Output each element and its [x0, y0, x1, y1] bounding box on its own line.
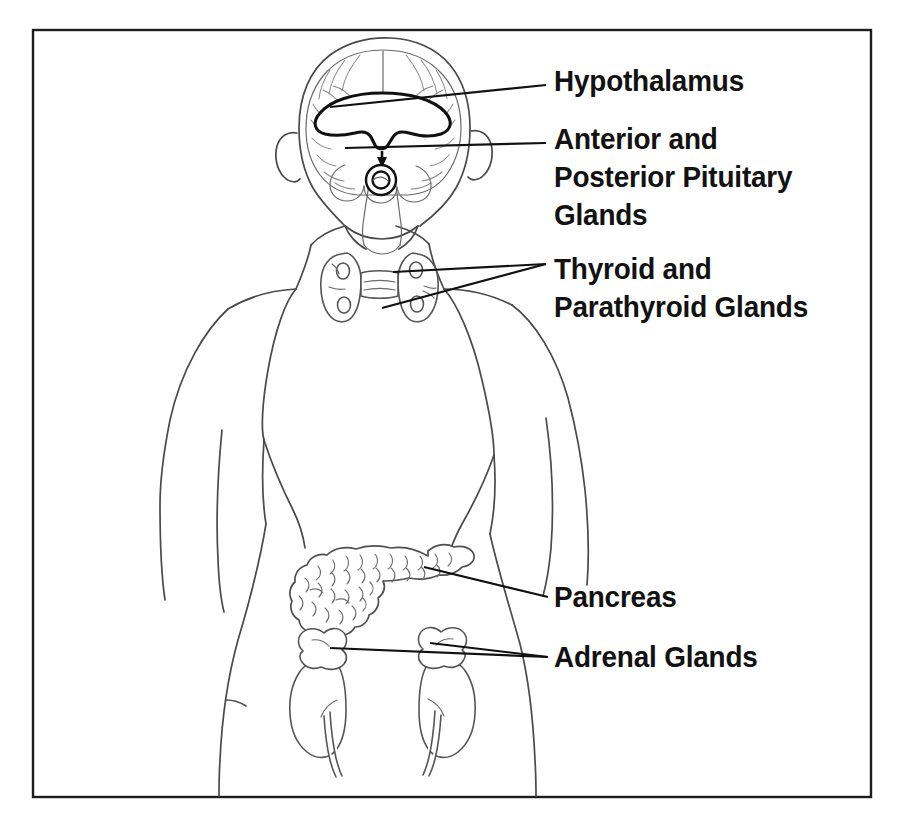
hypothalamus	[315, 93, 450, 168]
thyroid-gland	[321, 253, 438, 322]
pancreas	[290, 545, 474, 638]
right-adrenal-gland	[419, 628, 467, 669]
label-adrenal-glands: Adrenal Glands	[554, 638, 758, 676]
label-thyroid: Thyroid and Parathyroid Glands	[554, 250, 808, 326]
brain	[306, 50, 461, 254]
endocrine-diagram: Hypothalamus Anterior and Posterior Pitu…	[0, 0, 898, 815]
label-hypothalamus: Hypothalamus	[554, 62, 744, 100]
right-kidney	[419, 658, 475, 776]
leader-line-pancreas	[424, 567, 548, 597]
label-pituitary: Anterior and Posterior Pituitary Glands	[554, 120, 792, 234]
label-pancreas: Pancreas	[554, 578, 677, 616]
pituitary-gland	[366, 165, 396, 195]
torso-outline	[160, 289, 588, 796]
left-kidney	[290, 659, 346, 777]
